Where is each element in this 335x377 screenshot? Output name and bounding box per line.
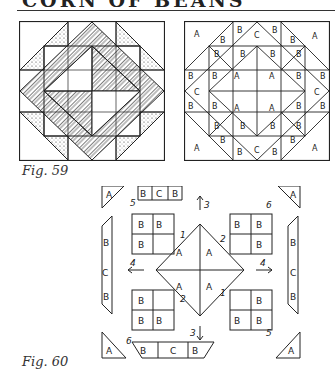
svg-text:A: A: [176, 282, 183, 292]
svg-text:B: B: [234, 220, 240, 230]
svg-text:B: B: [212, 102, 218, 111]
svg-text:B: B: [138, 240, 144, 250]
svg-text:4: 4: [130, 258, 136, 268]
svg-text:C: C: [314, 88, 320, 97]
svg-text:1: 1: [180, 230, 186, 240]
svg-text:B: B: [192, 346, 198, 356]
svg-text:B: B: [140, 189, 146, 199]
svg-text:B: B: [237, 148, 243, 157]
svg-text:B: B: [220, 36, 226, 45]
svg-text:C: C: [170, 346, 176, 356]
svg-text:B: B: [156, 220, 162, 230]
svg-text:B: B: [256, 296, 262, 306]
svg-text:A: A: [288, 346, 295, 356]
svg-text:B: B: [172, 189, 178, 199]
svg-text:B: B: [290, 36, 296, 45]
svg-text:B: B: [290, 238, 296, 248]
svg-text:B: B: [140, 346, 146, 356]
svg-text:B: B: [256, 240, 262, 250]
svg-text:B: B: [214, 122, 220, 131]
svg-text:A: A: [106, 346, 113, 356]
svg-text:1: 1: [220, 288, 226, 298]
svg-text:B: B: [290, 136, 296, 145]
fig59-caption: Fig. 59: [22, 163, 68, 178]
svg-text:3: 3: [190, 328, 196, 338]
svg-text:C: C: [254, 31, 260, 40]
svg-text:6: 6: [126, 336, 132, 346]
svg-text:A: A: [194, 144, 200, 153]
svg-text:A: A: [206, 248, 213, 258]
svg-text:B: B: [103, 292, 109, 302]
svg-text:A: A: [312, 144, 318, 153]
svg-text:A: A: [234, 72, 240, 81]
svg-text:B: B: [103, 238, 109, 248]
svg-text:B: B: [138, 316, 144, 326]
svg-text:B: B: [270, 122, 276, 131]
svg-text:A: A: [106, 190, 113, 200]
svg-text:B: B: [214, 50, 220, 59]
title-rule: [17, 10, 335, 11]
svg-text:B: B: [320, 102, 326, 111]
svg-text:B: B: [212, 72, 218, 81]
svg-text:2: 2: [180, 294, 186, 304]
svg-text:B: B: [320, 72, 326, 81]
svg-text:B: B: [234, 316, 240, 326]
svg-text:B: B: [272, 148, 278, 157]
svg-text:B: B: [220, 136, 226, 145]
svg-text:A: A: [290, 190, 297, 200]
svg-text:B: B: [240, 122, 246, 131]
svg-text:A: A: [269, 104, 275, 113]
fig60-assembly-diagram: AA AA AA AA CC CC BB BBB BBB BBB BBB BB …: [100, 186, 320, 372]
svg-text:B: B: [296, 122, 302, 131]
svg-text:C: C: [102, 268, 108, 278]
svg-text:A: A: [176, 248, 183, 258]
svg-text:A: A: [234, 104, 240, 113]
svg-text:C: C: [290, 268, 296, 278]
svg-text:B: B: [256, 220, 262, 230]
svg-text:B: B: [138, 296, 144, 306]
svg-text:B: B: [272, 26, 278, 35]
fig59-labeled-block: AA AA CC CC AA AA BB BB BB BB BB BB BB B…: [184, 21, 330, 161]
svg-text:B: B: [237, 26, 243, 35]
svg-text:6: 6: [266, 200, 272, 210]
fig60-caption: Fig. 60: [22, 354, 68, 369]
svg-text:3: 3: [204, 200, 210, 210]
svg-text:2: 2: [220, 234, 226, 244]
svg-text:C: C: [254, 146, 260, 155]
svg-text:B: B: [138, 220, 144, 230]
svg-text:B: B: [156, 316, 162, 326]
svg-text:A: A: [269, 72, 275, 81]
svg-text:B: B: [290, 292, 296, 302]
svg-text:B: B: [296, 50, 302, 59]
svg-text:B: B: [296, 102, 302, 111]
svg-text:A: A: [206, 282, 213, 292]
svg-text:A: A: [312, 32, 318, 41]
svg-text:4: 4: [260, 258, 266, 268]
fig59-shaded-block: [19, 21, 165, 161]
svg-text:5: 5: [266, 328, 272, 338]
svg-text:B: B: [296, 72, 302, 81]
svg-text:5: 5: [130, 198, 136, 208]
svg-text:B: B: [270, 50, 276, 59]
svg-text:B: B: [188, 102, 194, 111]
svg-text:B: B: [256, 316, 262, 326]
svg-text:B: B: [240, 50, 246, 59]
svg-text:B: B: [188, 72, 194, 81]
svg-text:C: C: [156, 189, 162, 199]
svg-text:A: A: [194, 30, 200, 39]
svg-text:C: C: [194, 88, 200, 97]
